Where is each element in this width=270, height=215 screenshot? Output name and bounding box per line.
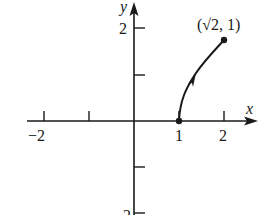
x-tick-label-1: 1 bbox=[175, 127, 183, 144]
start-point bbox=[176, 118, 182, 124]
x-axis-label: x bbox=[245, 100, 253, 117]
endpoint-label: (√2, 1) bbox=[197, 16, 240, 34]
y-tick-label-neg2: −2 bbox=[114, 207, 131, 215]
y-axis-label: y bbox=[118, 0, 128, 16]
x-tick-label-2: 2 bbox=[219, 127, 227, 144]
end-point bbox=[221, 37, 227, 43]
plot-area: −2 1 2 2 −2 x y (√2, 1) bbox=[0, 0, 270, 215]
x-tick-label-neg2: −2 bbox=[28, 127, 45, 144]
curve bbox=[179, 40, 224, 121]
y-tick-label-2: 2 bbox=[119, 20, 127, 37]
